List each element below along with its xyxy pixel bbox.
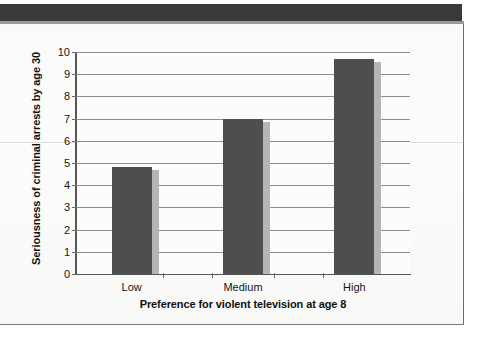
y-axis-title: Seriousness of criminal arrests by age 3… — [30, 55, 42, 265]
bar-low[interactable] — [112, 167, 152, 274]
y-tick-label-3: 3 — [64, 201, 70, 213]
x-tick-mark-2-1 — [323, 273, 324, 278]
y-tick-label-9: 9 — [64, 68, 70, 80]
y-tick-mark-10 — [72, 52, 76, 53]
y-tick-mark-1 — [72, 252, 76, 253]
bar-medium[interactable] — [223, 119, 263, 274]
y-tick-mark-5 — [72, 163, 76, 164]
y-tick-label-0: 0 — [64, 268, 70, 280]
y-tick-mark-4 — [72, 185, 76, 186]
y-tick-mark-6 — [72, 141, 76, 142]
y-tick-mark-0 — [72, 274, 76, 275]
gridline-y-10 — [76, 52, 410, 53]
x-tick-mark-1-1 — [212, 273, 213, 278]
x-tick-mark-2-0 — [274, 273, 275, 278]
y-tick-label-7: 7 — [64, 113, 70, 125]
y-tick-label-6: 6 — [64, 135, 70, 147]
bar-chart: Seriousness of criminal arrests by age 3… — [0, 24, 464, 325]
bar-high[interactable] — [334, 59, 374, 274]
x-tick-label-low: Low — [122, 281, 142, 293]
figure-page: Seriousness of criminal arrests by age 3… — [0, 0, 488, 348]
y-tick-mark-3 — [72, 207, 76, 208]
x-tick-label-medium: Medium — [223, 281, 262, 293]
y-tick-label-5: 5 — [64, 157, 70, 169]
y-tick-mark-2 — [72, 230, 76, 231]
page-top-dark-band — [0, 4, 462, 21]
y-tick-mark-8 — [72, 96, 76, 97]
y-tick-label-8: 8 — [64, 90, 70, 102]
y-tick-label-1: 1 — [64, 246, 70, 258]
y-tick-label-4: 4 — [64, 179, 70, 191]
y-tick-mark-9 — [72, 74, 76, 75]
x-axis-title: Preference for violent television at age… — [76, 298, 410, 310]
y-tick-label-10: 10 — [58, 46, 70, 58]
figure-frame: Seriousness of criminal arrests by age 3… — [0, 24, 464, 325]
plot-area: 012345678910LowMediumHigh — [76, 52, 410, 274]
x-tick-label-high: High — [343, 281, 366, 293]
x-tick-mark-1-0 — [163, 273, 164, 278]
y-tick-label-2: 2 — [64, 224, 70, 236]
y-tick-mark-7 — [72, 119, 76, 120]
